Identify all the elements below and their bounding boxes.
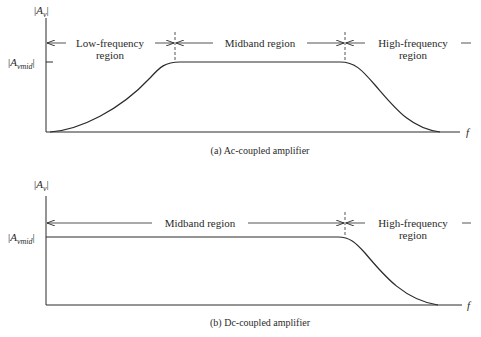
y-axis-label: |Av| xyxy=(34,4,49,19)
mid-region-label: Midband region xyxy=(165,217,236,229)
low-region-label-2: region xyxy=(96,49,125,61)
x-axis-label: f xyxy=(466,126,471,138)
y-axis-label: |Av| xyxy=(34,178,49,193)
mid-label-sub: vmid xyxy=(17,62,34,71)
mid-label-sub: vmid xyxy=(17,237,34,246)
panel-dc-coupled: |Av| f |Avmid| Midband region High-frequ… xyxy=(8,178,472,329)
low-region-label: Low-frequency xyxy=(76,37,144,49)
midband-gain-label: |Avmid| xyxy=(8,231,35,246)
frequency-response-diagram: |Av| f |Avmid| Low-frequency region Midb… xyxy=(0,0,481,337)
high-region-label-2: region xyxy=(399,49,428,61)
caption-b: (b) Dc-coupled amplifier xyxy=(210,317,311,329)
mid-region-label: Midband region xyxy=(225,37,296,49)
caption-a: (a) Ac-coupled amplifier xyxy=(211,145,311,157)
panel-ac-coupled: |Av| f |Avmid| Low-frequency region Midb… xyxy=(8,4,471,157)
ac-response-curve xyxy=(50,62,440,132)
high-region-label: High-frequency xyxy=(378,37,448,49)
midband-gain-label: |Avmid| xyxy=(8,56,35,71)
dc-response-curve xyxy=(46,237,438,305)
high-region-label-2: region xyxy=(399,229,428,241)
x-axis-label: f xyxy=(467,299,472,311)
high-region-label: High-frequency xyxy=(378,217,448,229)
